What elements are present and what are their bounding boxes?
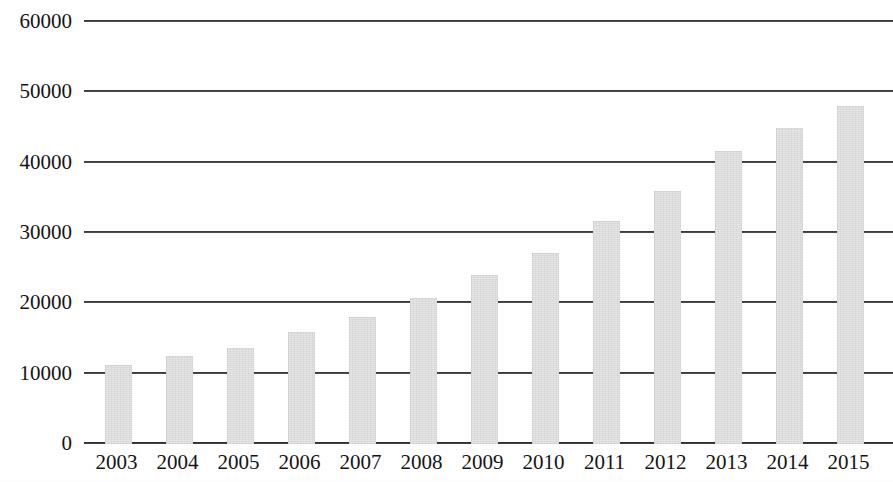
bar-chart: 0100002000030000400005000060000 20032004…	[0, 0, 893, 482]
gridline	[84, 90, 893, 92]
bar	[593, 221, 620, 444]
x-axis-tick-label: 2011	[574, 452, 635, 473]
bar	[349, 317, 376, 444]
x-axis-tick-label: 2006	[269, 452, 330, 473]
bar	[410, 298, 437, 444]
plot-area	[84, 22, 893, 444]
x-axis-tick-label: 2004	[147, 452, 208, 473]
x-axis-tick-label: 2014	[757, 452, 818, 473]
y-axis-tick-label: 60000	[0, 11, 72, 32]
x-axis-tick-label: 2012	[635, 452, 696, 473]
y-axis-tick-label: 0	[0, 433, 72, 454]
y-axis-tick-label: 50000	[0, 81, 72, 102]
bar	[227, 348, 254, 444]
y-axis-tick-label: 40000	[0, 152, 72, 173]
bar	[776, 128, 803, 444]
gridline	[84, 231, 893, 233]
y-axis-tick-label: 10000	[0, 363, 72, 384]
gridline	[84, 161, 893, 163]
x-axis-tick-label: 2003	[86, 452, 147, 473]
x-axis-tick-label: 2009	[452, 452, 513, 473]
y-axis-tick-label: 20000	[0, 292, 72, 313]
bar	[166, 356, 193, 444]
bar	[288, 332, 315, 444]
x-axis-tick-label: 2007	[330, 452, 391, 473]
x-axis-tick-label: 2005	[208, 452, 269, 473]
gridline	[84, 20, 893, 22]
x-axis-tick-label: 2008	[391, 452, 452, 473]
bar	[105, 365, 132, 444]
y-axis-tick-label: 30000	[0, 222, 72, 243]
x-axis-tick-label: 2013	[696, 452, 757, 473]
y-axis: 0100002000030000400005000060000	[0, 0, 72, 482]
bar	[471, 275, 498, 445]
x-axis-tick-label: 2010	[513, 452, 574, 473]
bar	[715, 151, 742, 444]
x-axis: 2003200420052006200720082009201020112012…	[0, 452, 893, 482]
bar	[654, 191, 681, 444]
x-axis-tick-label: 2015	[818, 452, 879, 473]
bar	[532, 253, 559, 444]
bar	[837, 106, 864, 444]
